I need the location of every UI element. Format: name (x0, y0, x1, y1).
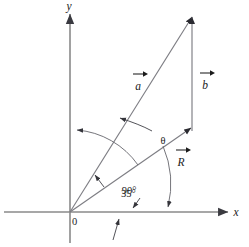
y-axis-label: y (65, 0, 72, 13)
x-axis-label: x (232, 206, 239, 218)
origin-label: 0 (72, 216, 77, 227)
vector-diagram-canvas: y x 0 a b R θ 35° 90° (0, 0, 249, 247)
leader-90-to-x-axis (133, 198, 140, 208)
axes-group (4, 14, 228, 243)
vector-a-line (70, 128, 191, 212)
vector-b-label: b (202, 79, 208, 91)
vector-R-label: a (135, 80, 141, 92)
arc-to-y-axis (77, 130, 138, 165)
angle-theta-label: θ (160, 135, 165, 146)
angle-90-label: 90° (122, 185, 137, 196)
vector-R-line (70, 17, 192, 212)
vector-a-label: R (176, 156, 184, 168)
vector-diagram-figure: y x 0 a b R θ 35° 90° (0, 0, 249, 247)
arc-90-degrees (163, 146, 171, 207)
vector-overbar-b (200, 70, 215, 75)
vector-overbar-a (176, 147, 191, 152)
vector-overbar-R (133, 71, 148, 76)
leader-to-35-degree-vertex (95, 175, 104, 187)
arrow-below-x-axis (113, 219, 119, 240)
